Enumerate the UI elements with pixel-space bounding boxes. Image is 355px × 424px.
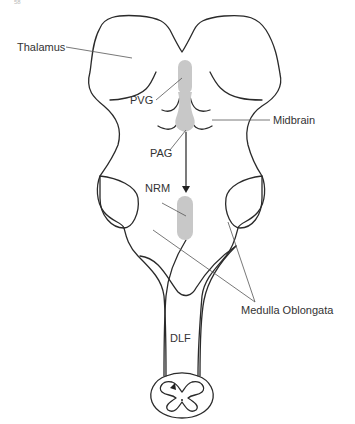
label-thalamus: Thalamus: [17, 41, 66, 53]
nrm-region: [177, 196, 193, 240]
right-thalamic-curve: [210, 72, 262, 100]
thalamus-leader: [66, 47, 132, 58]
spinal-dorsal-horn-marker-icon: [170, 383, 176, 390]
medulla-left-pyramid: [140, 246, 236, 295]
pvg-region: [178, 60, 192, 94]
brainstem-pain-pathway-diagram: 58 Thalamus PVG Midbrain PAG NRM Medulla…: [0, 0, 355, 424]
label-dlf: DLF: [170, 332, 191, 344]
label-medulla-oblongata: Medulla Oblongata: [241, 304, 334, 316]
page-number-fragment: 58: [14, 0, 21, 5]
pag-region: [175, 92, 194, 132]
spinal-gray-matter: [160, 382, 203, 412]
pvg-leader: [156, 78, 182, 100]
left-oval: [100, 176, 138, 228]
midbrain-curve-upper-right: [190, 96, 210, 111]
label-nrm: NRM: [145, 182, 170, 194]
medulla-inner-left: [164, 240, 186, 376]
label-pvg: PVG: [130, 94, 153, 106]
spinal-cord-outline: [151, 373, 213, 418]
right-oval: [226, 176, 262, 228]
label-pag: PAG: [150, 147, 172, 159]
medulla-leader-right: [228, 222, 255, 302]
midbrain-curve-upper-left: [162, 96, 180, 111]
label-midbrain: Midbrain: [273, 114, 315, 126]
central-canal: [181, 399, 183, 401]
medulla-leader-left: [153, 230, 255, 302]
arrow-head-icon: [182, 186, 190, 193]
